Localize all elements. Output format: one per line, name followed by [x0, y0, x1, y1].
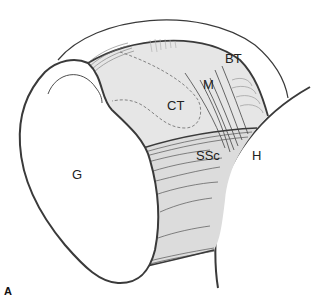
label-ct: CT	[167, 98, 184, 113]
label-h: H	[252, 148, 261, 163]
shoulder-diagram-svg: G CT M BT SSc H A	[0, 0, 324, 305]
anatomical-diagram: G CT M BT SSc H A	[0, 0, 324, 305]
label-ssc: SSc	[196, 148, 220, 163]
label-glenoid: G	[72, 167, 82, 182]
label-m: M	[203, 77, 214, 92]
panel-label: A	[4, 285, 12, 297]
label-bt: BT	[225, 51, 242, 66]
